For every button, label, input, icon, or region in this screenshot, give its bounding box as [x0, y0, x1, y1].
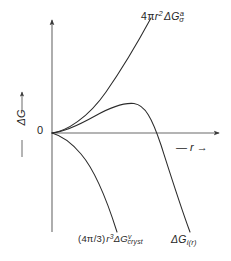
curve-label-volume-term: (4π/3)r3ΔGvcryst	[78, 234, 143, 246]
surface-pi-symbol: π	[147, 10, 155, 22]
total-argument: (r)	[189, 238, 197, 247]
surface-subscript: σ	[179, 15, 184, 24]
x-axis-title: —r→	[176, 142, 208, 153]
x-axis-lead-dash: —	[176, 141, 187, 153]
curve-label-surface-term: 4πr2ΔGaσ	[141, 10, 184, 23]
x-axis-title-symbol: r	[187, 141, 197, 153]
y-axis-title: ΔG	[16, 96, 27, 140]
curve-label-total-free-energy: ΔGi(r)	[171, 234, 197, 247]
y-axis-title-symbol: G	[15, 110, 27, 119]
volume-energy-symbol: G	[120, 233, 128, 244]
y-axis-title-delta: Δ	[15, 118, 27, 125]
volume-pi-symbol: π	[87, 233, 94, 244]
plot-canvas	[0, 0, 231, 261]
axis-origin-label: 0	[37, 125, 43, 136]
x-axis-arrow-glyph: →	[197, 141, 208, 153]
curve-total-free-energy	[52, 103, 190, 232]
curve-volume-term	[52, 133, 117, 232]
total-energy-symbol: G	[178, 233, 186, 245]
curve-surface-term	[52, 18, 151, 133]
nucleation-free-energy-diagram: 0 ΔG —r→ 4πr2ΔGaσ (4π/3)r3ΔGvcryst ΔGi(r…	[0, 0, 231, 261]
volume-subscript: cryst	[128, 238, 143, 245]
